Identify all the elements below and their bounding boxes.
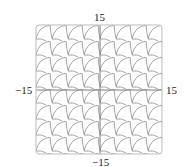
y-max-tick-label: 15 bbox=[94, 12, 105, 23]
plot-area bbox=[36, 25, 162, 154]
y-min-tick-label: −15 bbox=[92, 157, 109, 167]
x-max-tick-label: 15 bbox=[166, 85, 177, 96]
x-min-tick-label: −15 bbox=[15, 85, 32, 96]
